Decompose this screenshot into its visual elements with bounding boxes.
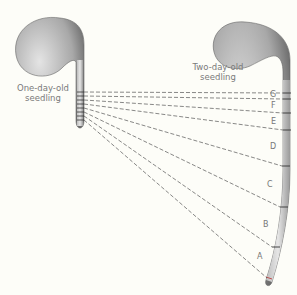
label-line: Two-day-old — [183, 62, 253, 72]
segment-label-a: A — [257, 252, 262, 261]
growth-connector-lines — [84, 92, 283, 278]
diagram-drawing — [0, 0, 297, 295]
label-line: One-day-old — [8, 83, 78, 93]
label-line: seedling — [183, 72, 253, 82]
label-line: seedling — [8, 93, 78, 103]
one-day-seedling — [16, 17, 84, 128]
segment-label-f: F — [271, 101, 276, 110]
segment-label-d: D — [270, 142, 276, 151]
segment-label-g: G — [270, 90, 276, 99]
seedling-growth-diagram: One-day-old seedling Two-day-old seedlin… — [0, 0, 297, 295]
segment-label-b: B — [263, 220, 269, 229]
one-day-seedling-label: One-day-old seedling — [8, 83, 78, 103]
two-day-seedling-label: Two-day-old seedling — [183, 62, 253, 82]
segment-label-e: E — [271, 117, 276, 126]
segment-label-c: C — [267, 180, 273, 189]
